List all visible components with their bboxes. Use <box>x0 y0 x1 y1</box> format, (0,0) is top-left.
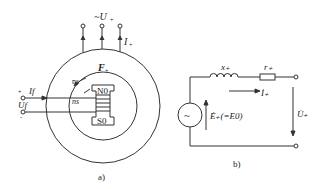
air-gap-circle <box>69 72 137 140</box>
field-winding-coil <box>96 95 110 111</box>
inductor-xplus <box>210 74 238 77</box>
terminal-arrows <box>81 36 122 40</box>
resistor-rplus <box>260 74 275 80</box>
terminal-1 <box>81 24 85 28</box>
output-voltage-label: U̇₊ <box>297 109 309 119</box>
emf-label: Ė₊(=E0) <box>209 111 243 121</box>
mmf-sub: + <box>105 68 109 74</box>
voltage-arrowhead <box>291 131 295 136</box>
voltage-source <box>178 103 202 127</box>
reactance-label: x₊ <box>220 62 230 72</box>
figure-b-labels: ~ x₊ r₊ İ₊ Ė₊(=E0) U̇₊ b) <box>184 62 309 169</box>
circuit-current-label: İ₊ <box>260 88 269 98</box>
current-arrowhead <box>255 89 260 93</box>
field-current-label: If <box>28 86 36 96</box>
caption-b: b) <box>233 159 241 169</box>
figure-a-machine <box>21 24 160 163</box>
south-pole-label: S0 <box>97 116 107 126</box>
resistance-label: r₊ <box>264 62 273 72</box>
emf-arrowhead <box>204 100 208 105</box>
line-current-label: I <box>123 36 128 47</box>
rotor-rotation-arrow <box>84 89 90 93</box>
mmf-label: F <box>97 62 105 73</box>
terminal-2 <box>100 24 104 28</box>
speed-label-outer: ns <box>72 77 79 86</box>
caption-a: a) <box>98 172 105 182</box>
source-symbol: ~ <box>184 109 190 121</box>
diagram-canvas: ~U + I + F + ns ns N0 S0 If Uf + - a) ~ <box>0 0 319 189</box>
plus-sign: + <box>18 89 22 95</box>
line-current-sub: + <box>129 42 133 48</box>
output-terminal-bottom <box>294 144 298 148</box>
speed-label-inner: ns <box>72 97 79 106</box>
terminal-voltage-sub: + <box>110 17 114 23</box>
output-terminal-top <box>294 75 298 79</box>
north-pole-label: N0 <box>97 86 108 96</box>
field-voltage-label: Uf <box>18 100 28 110</box>
terminal-voltage-label: ~U <box>94 11 107 22</box>
terminal-3 <box>118 24 122 28</box>
